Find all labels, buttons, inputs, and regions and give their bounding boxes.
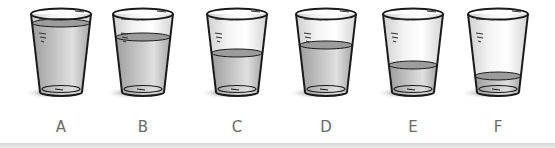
glass-label-b: B xyxy=(123,118,163,136)
glass-c xyxy=(197,0,277,110)
water-surface xyxy=(475,72,521,80)
glass-label-a: A xyxy=(41,118,81,136)
glass-f xyxy=(458,0,538,110)
water-surface xyxy=(300,41,353,49)
glass-b xyxy=(103,0,183,110)
water-surface xyxy=(389,61,437,69)
glass-d xyxy=(286,0,366,110)
glass-a xyxy=(21,0,101,110)
glass-label-c: C xyxy=(217,118,257,136)
water-surface xyxy=(212,49,263,57)
glass-e xyxy=(373,0,453,110)
glass-label-d: D xyxy=(306,118,346,136)
glass-label-f: F xyxy=(478,118,518,136)
glass-label-e: E xyxy=(393,118,433,136)
bottom-divider xyxy=(0,143,555,148)
water xyxy=(389,65,437,96)
water xyxy=(116,37,171,96)
